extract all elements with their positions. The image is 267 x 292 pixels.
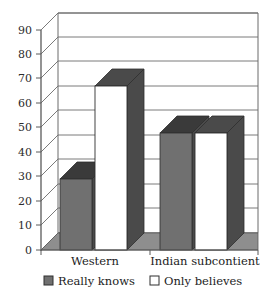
y-axis-tick-labels: 90 80 70 60 50 40 30 20 10 0	[18, 24, 32, 257]
y-tick-label-30: 30	[18, 170, 32, 183]
legend-swatch-only-believes	[150, 276, 159, 285]
y-tick-label-10: 10	[18, 219, 32, 232]
legend-swatch-really-knows	[44, 276, 53, 285]
bar-western-only-believes	[95, 69, 144, 250]
chart-canvas: 90 80 70 60 50 40 30 20 10 0	[0, 0, 267, 292]
y-tick-label-90: 90	[18, 24, 32, 37]
bar-indian-subcontient-only-believes	[195, 116, 244, 250]
y-tick-label-0: 0	[25, 244, 32, 257]
y-tick-label-70: 70	[18, 72, 32, 85]
y-tick-label-60: 60	[18, 97, 32, 110]
category-label-western: Western	[71, 254, 120, 268]
y-tick-label-40: 40	[18, 146, 32, 159]
category-label-indian-subcontient: Indian subcontient	[150, 254, 260, 268]
y-axis	[36, 30, 41, 251]
legend: Really knows Only believes	[44, 274, 242, 288]
legend-label-really-knows: Really knows	[58, 274, 135, 288]
legend-label-only-believes: Only believes	[164, 274, 242, 288]
legend-item-only-believes[interactable]: Only believes	[150, 274, 242, 288]
y-tick-label-20: 20	[18, 195, 32, 208]
x-axis-category-labels: Western Indian subcontient	[71, 254, 260, 268]
y-tick-label-80: 80	[18, 48, 32, 61]
bar-chart: 90 80 70 60 50 40 30 20 10 0	[0, 0, 267, 292]
legend-item-really-knows[interactable]: Really knows	[44, 274, 135, 288]
y-tick-label-50: 50	[18, 121, 32, 134]
